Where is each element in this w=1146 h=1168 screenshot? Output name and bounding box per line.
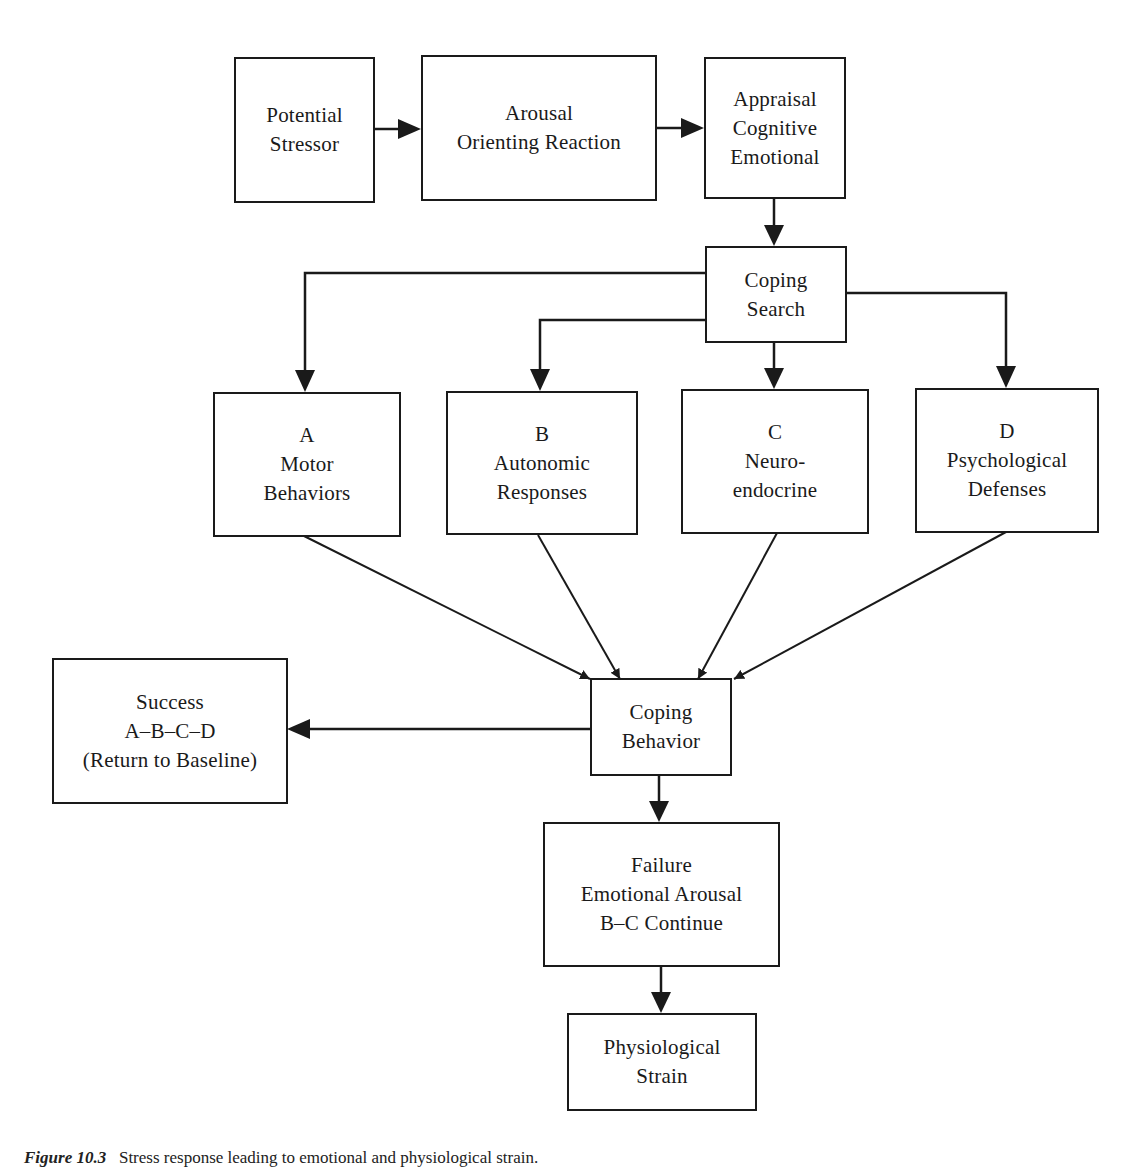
node-failure: Failure Emotional Arousal B–C Continue [543, 822, 780, 967]
node-label: Stressor [270, 130, 339, 159]
node-motor-behaviors: A Motor Behaviors [213, 392, 401, 537]
arrow-coping-search-to-psychological [846, 293, 1016, 388]
node-label: Appraisal [733, 85, 816, 114]
arrow-coping-behavior-to-failure [649, 775, 669, 822]
node-label: Strain [636, 1062, 687, 1091]
node-label: Behaviors [264, 479, 351, 508]
node-success: Success A–B–C–D (Return to Baseline) [52, 658, 288, 804]
node-label: D [999, 417, 1014, 446]
arrow-psychological-to-coping-behavior [734, 532, 1006, 679]
node-label: Failure [631, 851, 692, 880]
node-label: Orienting Reaction [457, 128, 621, 157]
node-label: Defenses [968, 475, 1047, 504]
node-label: Motor [280, 450, 334, 479]
node-label: Responses [497, 478, 587, 507]
node-label: Coping [629, 698, 692, 727]
node-neuroendocrine: C Neuro- endocrine [681, 389, 869, 534]
node-label: A–B–C–D [124, 717, 215, 746]
node-appraisal: Appraisal Cognitive Emotional [704, 57, 846, 199]
node-label: Physiological [604, 1033, 721, 1062]
node-label: Autonomic [494, 449, 590, 478]
node-label: Search [747, 295, 805, 324]
node-psychological-defenses: D Psychological Defenses [915, 388, 1099, 533]
arrow-coping-behavior-to-success [287, 719, 590, 739]
node-label: endocrine [733, 476, 818, 505]
node-label: Cognitive [733, 114, 818, 143]
arrow-stressor-to-arousal [374, 119, 421, 139]
arrow-arousal-to-appraisal [656, 118, 704, 138]
arrow-appraisal-to-coping-search [764, 198, 784, 246]
node-label: (Return to Baseline) [83, 746, 257, 775]
caption-text: Stress response leading to emotional and… [119, 1148, 538, 1167]
node-label: Neuro- [745, 447, 806, 476]
arrow-coping-search-to-neuroendocrine [764, 342, 784, 389]
arrow-neuroendocrine-to-coping-behavior [698, 533, 777, 679]
node-label: A [299, 421, 314, 450]
node-label: Coping [744, 266, 807, 295]
arrow-coping-search-to-motor [295, 273, 705, 392]
arrow-failure-to-strain [651, 966, 671, 1013]
node-coping-search: Coping Search [705, 246, 847, 343]
node-label: Emotional Arousal [581, 880, 742, 909]
node-potential-stressor: Potential Stressor [234, 57, 375, 203]
node-label: Arousal [505, 99, 573, 128]
node-physiological-strain: Physiological Strain [567, 1013, 757, 1111]
arrow-autonomic-to-coping-behavior [538, 535, 620, 679]
node-coping-behavior: Coping Behavior [590, 678, 732, 776]
caption-prefix: Figure 10.3 [24, 1148, 106, 1167]
arrow-motor-to-coping-behavior [304, 536, 590, 679]
node-autonomic-responses: B Autonomic Responses [446, 391, 638, 535]
arrow-coping-search-to-autonomic [530, 320, 705, 391]
node-arousal: Arousal Orienting Reaction [421, 55, 657, 201]
node-label: Psychological [947, 446, 1067, 475]
node-label: Emotional [730, 143, 819, 172]
node-label: Behavior [622, 727, 701, 756]
node-label: B–C Continue [600, 909, 723, 938]
node-label: B [535, 420, 549, 449]
node-label: C [768, 418, 782, 447]
node-label: Success [136, 688, 204, 717]
node-label: Potential [266, 101, 342, 130]
figure-caption: Figure 10.3 Stress response leading to e… [24, 1148, 538, 1168]
